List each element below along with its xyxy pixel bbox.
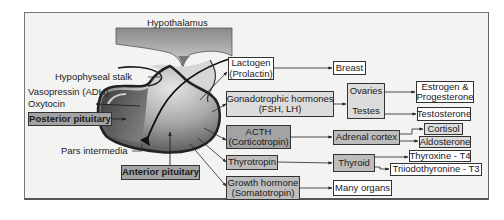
target-label: Thyroid xyxy=(338,158,370,169)
oxytocin-label: Oxytocin xyxy=(28,98,65,109)
target-label-testes: Testes xyxy=(352,106,379,117)
hormone-box-thyrotropin: Thyrotropin xyxy=(226,155,278,170)
product-label: Thyroxine - T4 xyxy=(409,151,470,162)
hypophyseal-stalk-label: Hypophyseal stalk xyxy=(55,71,132,82)
hormone-box-lactogen: Lactogen (Prolactin) xyxy=(228,57,274,80)
hormone-box-acth: ACTH (Corticotropin) xyxy=(226,125,291,149)
product-label: Cortisol xyxy=(427,124,459,135)
hormone-name: Thyrotropin xyxy=(228,157,276,168)
target-box-many-organs: Many organs xyxy=(333,180,392,196)
hypothalamus-label: Hypothalamus xyxy=(147,17,208,28)
product-box-testosterone: Testosterone xyxy=(417,107,471,121)
anterior-pituitary-label: Anterior pituitary xyxy=(122,167,199,178)
pars-intermedia-label: Pars intermedia xyxy=(61,145,128,156)
product-label: Testosterone xyxy=(417,109,471,120)
anterior-pituitary-box: Anterior pituitary xyxy=(121,165,200,180)
hormone-box-gonadotrophic: Gonadotrophic hormones (FSH, LH) xyxy=(226,91,334,117)
product-box-triiodothyronine: Triiodothyronine - T3 xyxy=(390,163,482,176)
posterior-pituitary-box: Posterior pituitary xyxy=(28,112,112,126)
hormone-name: Lactogen xyxy=(231,58,270,69)
posterior-pituitary-label: Posterior pituitary xyxy=(29,114,111,125)
target-label: Adrenal cortex xyxy=(336,132,397,143)
product-label: Triiodothyronine - T3 xyxy=(392,164,479,175)
vasopressin-label: Vasopressin (ADH) xyxy=(28,86,109,97)
hormone-box-growth: Growth hormone (Somatotropin) xyxy=(226,176,300,200)
product-label: Aldosterone xyxy=(420,137,471,148)
target-box-adrenal-cortex: Adrenal cortex xyxy=(333,130,400,145)
hormone-alias: (Somatotropin) xyxy=(232,188,295,199)
target-box-gonads: Ovaries Testes xyxy=(347,83,385,119)
target-label-ovaries: Ovaries xyxy=(350,86,383,97)
product-box-cortisol: Cortisol xyxy=(424,123,463,135)
product-box-thyroxine: Thyroxine - T4 xyxy=(409,150,471,162)
product-label: Progesterone xyxy=(416,92,473,103)
hormone-alias: (Prolactin) xyxy=(229,69,272,80)
target-label: Many organs xyxy=(335,183,390,194)
hormone-alias: (Corticotropin) xyxy=(228,137,288,148)
product-box-aldosterone: Aldosterone xyxy=(419,136,471,148)
target-box-breast: Breast xyxy=(333,61,366,75)
product-box-estrogen: Estrogen & Progesterone xyxy=(416,81,474,103)
hormone-alias: (FSH, LH) xyxy=(259,104,302,115)
target-box-thyroid: Thyroid xyxy=(333,154,375,172)
target-label: Breast xyxy=(336,63,363,74)
hypothalamus-shape xyxy=(116,28,232,68)
